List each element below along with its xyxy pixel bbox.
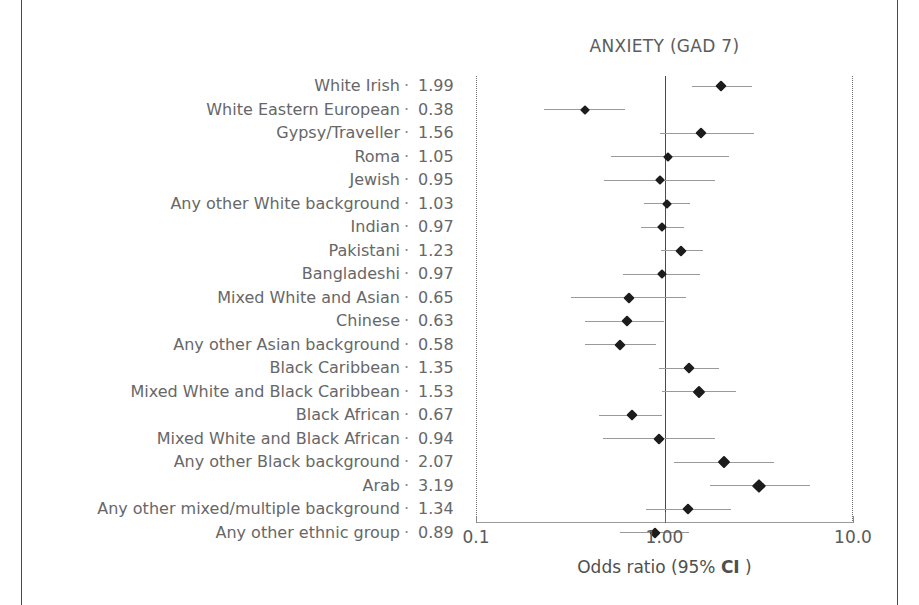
x-axis-tick xyxy=(665,512,666,523)
row-separator-dot: · xyxy=(404,264,409,283)
row-category-label: Any other Asian background xyxy=(60,335,400,354)
row-separator-dot: · xyxy=(404,429,409,448)
row-odds-ratio-value: 1.56 xyxy=(418,123,462,142)
point-estimate-marker xyxy=(693,385,706,398)
x-axis-tick-label: 10.0 xyxy=(834,527,872,547)
row-separator-dot: · xyxy=(404,100,409,119)
row-separator-dot: · xyxy=(404,382,409,401)
point-estimate-marker xyxy=(715,80,726,91)
row-category-label: White Irish xyxy=(60,76,400,95)
row-odds-ratio-value: 0.97 xyxy=(418,217,462,236)
row-odds-ratio-value: 0.65 xyxy=(418,288,462,307)
row-category-label: Jewish xyxy=(60,170,400,189)
row-category-label: Chinese xyxy=(60,311,400,330)
row-category-label: Roma xyxy=(60,147,400,166)
row-separator-dot: · xyxy=(404,523,409,542)
row-separator-dot: · xyxy=(404,452,409,471)
row-separator-dot: · xyxy=(404,476,409,495)
plot-edge-left-dotted xyxy=(476,76,477,523)
point-estimate-marker xyxy=(662,199,672,209)
confidence-interval-bar xyxy=(660,133,754,134)
row-odds-ratio-value: 3.19 xyxy=(418,476,462,495)
row-separator-dot: · xyxy=(404,241,409,260)
row-category-label: Any other White background xyxy=(60,194,400,213)
x-axis-caption-before: Odds ratio (95% xyxy=(577,557,721,577)
point-estimate-marker xyxy=(626,409,637,420)
row-category-label: Indian xyxy=(60,217,400,236)
plot-area xyxy=(476,76,853,523)
row-separator-dot: · xyxy=(404,499,409,518)
row-category-label: Any other Black background xyxy=(60,452,400,471)
x-axis-tick-label: 1.00 xyxy=(646,527,684,547)
row-odds-ratio-value: 0.58 xyxy=(418,335,462,354)
row-category-label: Pakistani xyxy=(60,241,400,260)
table-row: Any other ethnic group·0.89 xyxy=(0,523,919,547)
row-category-label: Any other ethnic group xyxy=(60,523,400,542)
row-category-label: Gypsy/Traveller xyxy=(60,123,400,142)
point-estimate-marker xyxy=(683,362,694,373)
row-category-label: Arab xyxy=(60,476,400,495)
row-odds-ratio-value: 1.53 xyxy=(418,382,462,401)
row-separator-dot: · xyxy=(404,123,409,142)
row-separator-dot: · xyxy=(404,170,409,189)
plot-edge-right-dotted xyxy=(852,76,853,523)
x-axis-caption-after: ) xyxy=(740,557,752,577)
row-odds-ratio-value: 1.34 xyxy=(418,499,462,518)
row-category-label: Black Caribbean xyxy=(60,358,400,377)
x-axis-caption-ci: CI xyxy=(721,557,740,577)
point-estimate-marker xyxy=(676,245,687,256)
chart-title: ANXIETY (GAD 7) xyxy=(476,36,853,56)
row-category-label: Mixed White and Black Caribbean xyxy=(60,382,400,401)
row-separator-dot: · xyxy=(404,147,409,166)
row-category-label: Mixed White and Asian xyxy=(60,288,400,307)
row-category-label: Mixed White and Black African xyxy=(60,429,400,448)
row-odds-ratio-value: 1.35 xyxy=(418,358,462,377)
point-estimate-marker xyxy=(614,339,625,350)
row-category-label: Any other mixed/multiple background xyxy=(60,499,400,518)
row-odds-ratio-value: 0.89 xyxy=(418,523,462,542)
point-estimate-marker xyxy=(621,315,632,326)
row-category-label: White Eastern European xyxy=(60,100,400,119)
row-separator-dot: · xyxy=(404,358,409,377)
x-axis-tick xyxy=(476,516,477,523)
row-odds-ratio-value: 1.03 xyxy=(418,194,462,213)
row-separator-dot: · xyxy=(404,405,409,424)
row-separator-dot: · xyxy=(404,217,409,236)
x-axis-tick-label: 0.1 xyxy=(462,527,489,547)
row-separator-dot: · xyxy=(404,335,409,354)
row-odds-ratio-value: 0.38 xyxy=(418,100,462,119)
row-odds-ratio-value: 1.99 xyxy=(418,76,462,95)
reference-line-at-one xyxy=(665,76,666,523)
point-estimate-marker xyxy=(718,456,731,469)
row-odds-ratio-value: 0.63 xyxy=(418,311,462,330)
row-category-label: Black African xyxy=(60,405,400,424)
row-odds-ratio-value: 0.97 xyxy=(418,264,462,283)
point-estimate-marker xyxy=(683,503,694,514)
x-axis-tick xyxy=(853,516,854,523)
forest-plot-figure: ANXIETY (GAD 7) White Irish·1.99White Ea… xyxy=(0,0,919,605)
row-category-label: Bangladeshi xyxy=(60,264,400,283)
row-separator-dot: · xyxy=(404,288,409,307)
row-odds-ratio-value: 0.95 xyxy=(418,170,462,189)
row-odds-ratio-value: 2.07 xyxy=(418,452,462,471)
point-estimate-marker xyxy=(695,127,706,138)
row-odds-ratio-value: 1.23 xyxy=(418,241,462,260)
point-estimate-marker xyxy=(580,105,590,115)
row-odds-ratio-value: 0.67 xyxy=(418,405,462,424)
row-separator-dot: · xyxy=(404,311,409,330)
row-odds-ratio-value: 1.05 xyxy=(418,147,462,166)
point-estimate-marker xyxy=(654,433,665,444)
row-separator-dot: · xyxy=(404,194,409,213)
point-estimate-marker xyxy=(752,478,766,492)
row-separator-dot: · xyxy=(404,76,409,95)
x-axis-caption: Odds ratio (95% CI ) xyxy=(476,557,853,577)
point-estimate-marker xyxy=(624,292,635,303)
row-odds-ratio-value: 0.94 xyxy=(418,429,462,448)
